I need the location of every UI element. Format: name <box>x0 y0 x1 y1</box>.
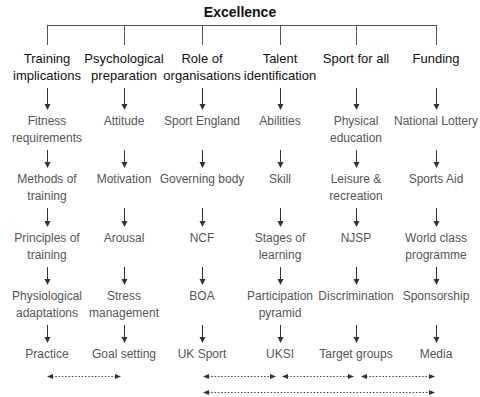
down-arrow-icon <box>120 208 129 231</box>
diagram-node: UK Sport <box>157 346 247 363</box>
double-arrow-connector <box>282 366 354 373</box>
diagram-node: Arousal <box>79 230 169 247</box>
diagram-node: Governing body <box>157 171 247 188</box>
diagram-node: Media <box>391 346 480 363</box>
diagram-node: Attitude <box>79 113 169 130</box>
down-arrow-icon <box>198 150 207 172</box>
down-arrow-icon <box>43 267 52 289</box>
diagram-node: Discrimination <box>311 288 401 305</box>
diagram-node: Sponsorship <box>391 288 480 305</box>
down-arrow-icon <box>43 88 52 114</box>
down-arrow-icon <box>432 150 441 172</box>
bracket-drop <box>124 25 125 45</box>
diagram-node: NCF <box>157 230 247 247</box>
bracket-drop <box>202 25 203 45</box>
down-arrow-icon <box>352 88 361 114</box>
bracket-drop <box>356 25 357 45</box>
column-heading: Funding <box>391 50 480 67</box>
diagram-node: National Lottery <box>391 113 480 130</box>
column-heading: Psychological preparation <box>79 50 169 84</box>
down-arrow-icon <box>198 208 207 231</box>
bracket-drop <box>47 25 48 45</box>
diagram-node: Sports Aid <box>391 171 480 188</box>
down-arrow-icon <box>276 88 285 114</box>
bracket-drop <box>436 25 437 45</box>
down-arrow-icon <box>198 88 207 114</box>
down-arrow-icon <box>432 325 441 347</box>
diagram-title: Excellence <box>0 4 480 20</box>
down-arrow-icon <box>432 88 441 114</box>
double-arrow-connector <box>203 382 435 389</box>
down-arrow-icon <box>198 267 207 289</box>
down-arrow-icon <box>276 267 285 289</box>
down-arrow-icon <box>432 208 441 231</box>
diagram-node: Sport England <box>157 113 247 130</box>
down-arrow-icon <box>120 325 129 347</box>
double-arrow-connector <box>361 366 435 373</box>
down-arrow-icon <box>352 150 361 172</box>
column-heading: Sport for all <box>311 50 401 67</box>
down-arrow-icon <box>43 208 52 231</box>
diagram-node: Physical education <box>311 113 401 147</box>
diagram-node: Target groups <box>311 346 401 363</box>
diagram-node: Goal setting <box>79 346 169 363</box>
diagram-node: Stress management <box>79 288 169 322</box>
down-arrow-icon <box>352 325 361 347</box>
down-arrow-icon <box>276 208 285 231</box>
down-arrow-icon <box>352 267 361 289</box>
diagram-node: World class programme <box>391 230 480 264</box>
down-arrow-icon <box>43 150 52 172</box>
bracket-drop <box>280 25 281 45</box>
diagram-node: Leisure & recreation <box>311 171 401 205</box>
down-arrow-icon <box>276 325 285 347</box>
double-arrow-connector <box>47 366 121 373</box>
down-arrow-icon <box>352 208 361 231</box>
double-arrow-connector <box>203 366 276 373</box>
down-arrow-icon <box>120 267 129 289</box>
down-arrow-icon <box>198 325 207 347</box>
down-arrow-icon <box>43 325 52 347</box>
down-arrow-icon <box>120 88 129 114</box>
down-arrow-icon <box>120 150 129 172</box>
top-bracket-line <box>47 25 436 26</box>
diagram-node: NJSP <box>311 230 401 247</box>
down-arrow-icon <box>432 267 441 289</box>
diagram-node: BOA <box>157 288 247 305</box>
down-arrow-icon <box>276 150 285 172</box>
column-heading: Role of organisations <box>157 50 247 84</box>
diagram-node: Motivation <box>79 171 169 188</box>
